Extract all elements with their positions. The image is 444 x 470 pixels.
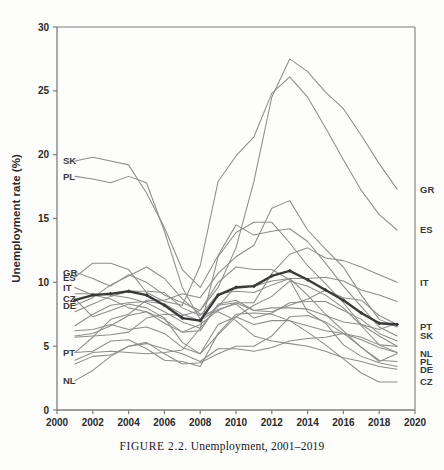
- figure-root: SKPLGRESITCZDEPTNLGRESITPTSKNLPLDECZ 051…: [0, 0, 444, 470]
- y-tick-label: 20: [38, 149, 50, 160]
- figure-caption: FIGURE 2.2. Unemployment, 2001–2019: [0, 440, 444, 452]
- figure-caption-label: FIGURE 2.2.: [120, 440, 188, 452]
- left-label-NL: NL: [63, 375, 76, 386]
- y-tick-label: 30: [38, 22, 50, 33]
- y-tick-label: 25: [38, 85, 50, 96]
- x-tick-label: 2002: [82, 417, 105, 428]
- left-label-DE: DE: [63, 300, 76, 311]
- right-label-IT: IT: [420, 277, 429, 288]
- left-label-IT: IT: [63, 282, 72, 293]
- x-tick-label: 2010: [225, 417, 248, 428]
- right-label-CZ: CZ: [420, 376, 433, 387]
- right-label-GR: GR: [420, 184, 434, 195]
- y-axis-title: Unemployment rate (%): [10, 154, 22, 283]
- x-tick-label: 2016: [332, 417, 355, 428]
- left-label-PT: PT: [63, 347, 75, 358]
- x-tick-label: 2014: [296, 417, 319, 428]
- x-tick-label: 2004: [117, 417, 140, 428]
- y-tick-label: 5: [43, 341, 49, 352]
- x-tick-label: 2020: [404, 417, 427, 428]
- figure-caption-text: Unemployment, 2001–2019: [191, 440, 325, 452]
- x-tick-label: 2018: [368, 417, 391, 428]
- y-tick-label: 0: [43, 405, 49, 416]
- chart-background: [0, 0, 444, 440]
- x-tick-label: 2008: [189, 417, 212, 428]
- y-tick-label: 10: [38, 277, 50, 288]
- unemployment-line-chart: SKPLGRESITCZDEPTNLGRESITPTSKNLPLDECZ 051…: [0, 0, 444, 440]
- x-tick-label: 2006: [153, 417, 176, 428]
- x-tick-label: 2012: [261, 417, 284, 428]
- right-label-SK: SK: [420, 330, 433, 341]
- y-tick-label: 15: [38, 213, 50, 224]
- left-label-PL: PL: [63, 171, 75, 182]
- left-label-SK: SK: [63, 155, 76, 166]
- right-label-DE: DE: [420, 364, 433, 375]
- x-tick-label: 2000: [46, 417, 69, 428]
- right-label-ES: ES: [420, 224, 433, 235]
